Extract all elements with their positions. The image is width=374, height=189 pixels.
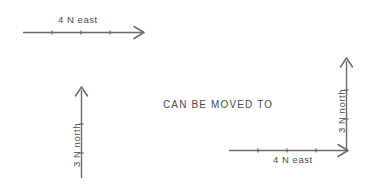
diagram-canvas [0,0,374,189]
label-left-north: 3 N north [72,123,82,167]
vector-diagram: 4 N east 3 N north CAN BE MOVED TO 4 N e… [0,0,374,189]
label-left-east: 4 N east [58,15,98,25]
relation-text: CAN BE MOVED TO [163,100,273,110]
label-right-north: 3 N north [337,89,347,133]
vector-left-east [23,27,144,39]
label-right-east: 4 N east [273,155,313,165]
